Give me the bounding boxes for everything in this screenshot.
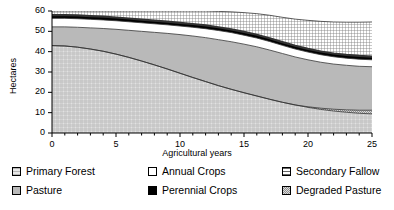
legend-label: Secondary Fallow (296, 166, 379, 177)
legend-item[interactable]: Perennial Crops (148, 185, 237, 196)
legend-item[interactable]: Pasture (12, 185, 62, 196)
chart-legend: Primary ForestPastureAnnual CropsPerenni… (0, 166, 394, 206)
y-tick-label: 20 (0, 86, 45, 96)
y-tick-label: 50 (0, 25, 45, 35)
legend-swatch-white (148, 167, 157, 176)
legend-label: Perennial Crops (162, 185, 237, 196)
legend-swatch-fine-crosshatch (282, 167, 291, 176)
stacked-area-chart: 0102030405060 0510152025 Hectares Agricu… (0, 0, 394, 210)
y-axis-title: Hectares (8, 36, 18, 116)
legend-label: Annual Crops (162, 166, 226, 177)
legend-swatch-dense-dots (282, 186, 291, 195)
x-axis-title: Agricultural years (0, 148, 394, 158)
legend-label: Primary Forest (26, 166, 95, 177)
y-tick-label: 40 (0, 46, 45, 56)
legend-swatch-light-crosshatch (12, 167, 21, 176)
legend-swatch-solid-black (148, 186, 157, 195)
legend-label: Pasture (26, 185, 62, 196)
legend-swatch-solid-gray (12, 186, 21, 195)
legend-label: Degraded Pasture (296, 185, 381, 196)
legend-item[interactable]: Primary Forest (12, 166, 95, 177)
legend-item[interactable]: Annual Crops (148, 166, 226, 177)
legend-item[interactable]: Secondary Fallow (282, 166, 379, 177)
y-tick-label: 60 (0, 5, 45, 15)
y-tick-label: 10 (0, 107, 45, 117)
legend-item[interactable]: Degraded Pasture (282, 185, 381, 196)
y-tick-label: 0 (0, 127, 45, 137)
y-tick-label: 30 (0, 66, 45, 76)
